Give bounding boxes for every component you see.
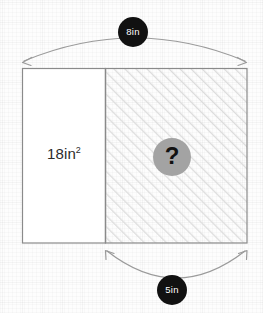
unknown-area-marker: ?: [153, 138, 191, 176]
bottom-dimension-label: 5in: [165, 285, 178, 295]
left-region-area-value: 18in: [47, 145, 76, 162]
figure-canvas: 8in 5in 18in2 ?: [0, 0, 263, 313]
bottom-dimension-arc: [107, 251, 245, 278]
bottom-dimension-badge: 5in: [157, 275, 187, 305]
top-arrowhead-right-icon: [238, 58, 247, 66]
question-mark-label: ?: [165, 144, 180, 168]
left-region-area-label: 18in2: [26, 145, 102, 162]
top-arrowhead-left-icon: [23, 58, 32, 66]
top-dimension-badge: 8in: [118, 17, 148, 47]
top-dimension-label: 8in: [126, 27, 139, 37]
left-region-area-exponent: 2: [76, 145, 81, 155]
